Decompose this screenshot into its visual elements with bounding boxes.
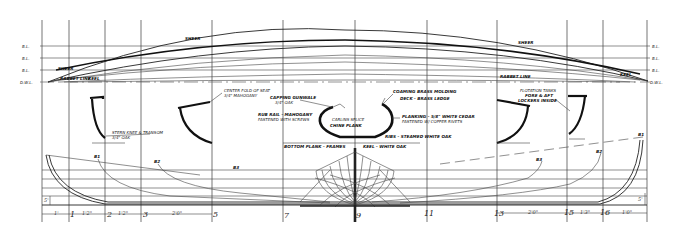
dim-6: 1'3" — [580, 209, 590, 215]
station-13: 13 — [494, 209, 504, 218]
level-label-right-1: B.L. — [652, 44, 660, 49]
note-planking-sub: FASTENED W/ COPPER RIVETS — [402, 119, 463, 124]
note-stern-knee-sub: 3/4" OAK — [112, 135, 130, 140]
note-center-fold-sub: 3/4" MAHOGANY — [224, 93, 258, 98]
body-plan — [300, 148, 410, 222]
station-11: 11 — [424, 209, 434, 218]
dim-1: 1' — [54, 210, 59, 216]
dim-3: 1'2" — [118, 210, 128, 216]
keel-label-left: KEEL — [88, 76, 100, 81]
keel-label-right: KEEL — [620, 72, 632, 77]
cross-sections: STERN KNEE & TRANSOM 3/4" OAK CENTER FOL… — [90, 88, 587, 149]
station-9: 9 — [356, 211, 361, 220]
note-deck: DECK - BRASS LEDGE — [400, 96, 450, 101]
level-label-right-2: B.L. — [652, 56, 660, 61]
note-carlins: CARLINS SPLICE — [332, 117, 365, 122]
rabbet-label-left: RABBET LINE — [60, 76, 91, 81]
rabbet-label-right: RABBET LINE — [500, 74, 531, 79]
note-bottom-plank: BOTTOM PLANK - FRAMES — [284, 144, 346, 149]
station-2: 2 — [106, 210, 112, 219]
note-lockers: LOCKERS INSIDE — [518, 98, 557, 103]
dim-2: 1'2" — [82, 210, 92, 216]
sheer-plan: SHEER SHEER SHEER RABBET LINE RABBET LIN… — [20, 29, 663, 85]
height-dim-left: 5' — [44, 197, 49, 203]
height-dim-right: 5' — [638, 196, 643, 202]
level-label-right-4: D.W.L. — [650, 80, 663, 85]
boat-lines-drawing: SHEER SHEER SHEER RABBET LINE RABBET LIN… — [0, 0, 692, 230]
note-chine: CHINE PLANK — [330, 123, 362, 128]
buttock-label-4: B3 — [536, 157, 542, 162]
station-15: 15 — [564, 208, 574, 217]
level-label-left-1: B.L. — [22, 44, 30, 49]
note-coaming: COAMING BRASS MOLDING — [393, 89, 457, 94]
dim-5: 2'0" — [527, 209, 538, 215]
sheer-label-upper: SHEER — [185, 36, 200, 41]
station-1: 1 — [70, 210, 75, 219]
station-3: 3 — [143, 210, 148, 219]
note-keel: KEEL - WHITE OAK — [363, 144, 407, 149]
sheer-label-left: SHEER — [58, 66, 73, 71]
buttock-label-6: B1 — [638, 132, 644, 137]
dim-4: 2'0" — [171, 210, 182, 216]
buttock-label-3: B3 — [233, 165, 239, 170]
buttock-label-1: B1 — [94, 154, 100, 159]
buttock-label-2: B2 — [154, 159, 160, 164]
level-label-left-2: B.L. — [22, 56, 30, 61]
station-16: 16 — [600, 208, 610, 217]
buttock-label-5: B2 — [596, 149, 602, 154]
level-label-left-4: D.W.L. — [20, 80, 33, 85]
note-rub-rail-sub: FASTENED WITH SCREWS — [258, 117, 310, 122]
sheer-label-right: SHEER — [518, 40, 533, 45]
station-labels: 1 2 3 5 7 9 11 13 15 16 1' 1'2" 1'2" 2'0… — [42, 208, 647, 220]
note-gunwale-sub: 3/4" OAK — [275, 100, 293, 105]
level-label-right-3: B.L. — [652, 68, 660, 73]
level-label-left-3: B.L. — [22, 68, 30, 73]
dim-7: 1'0" — [622, 209, 632, 215]
station-7: 7 — [284, 211, 290, 220]
note-ribs: RIBS - STEAMED WHITE OAK — [385, 134, 452, 139]
station-5: 5 — [213, 210, 218, 219]
